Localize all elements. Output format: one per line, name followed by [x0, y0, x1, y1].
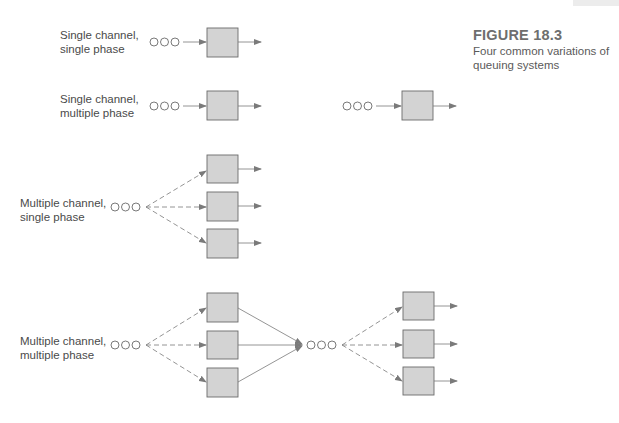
queue-customers-icon [307, 341, 336, 349]
dashed-arrow-icon [342, 307, 402, 345]
server-box-phase-1 [207, 368, 238, 397]
server-box-phase-1 [207, 293, 238, 322]
single-channel-single-phase-diagram [150, 28, 261, 57]
multiple-channel-single-phase-diagram [111, 155, 261, 258]
server-box-phase-1 [207, 331, 238, 359]
queue-customers-icon [150, 102, 179, 110]
server-box-phase-1 [207, 91, 238, 120]
server-box [207, 155, 238, 183]
server-box-phase-2 [403, 367, 434, 395]
dashed-arrow-icon [146, 171, 206, 207]
server-box [207, 28, 238, 57]
server-box-phase-2 [403, 330, 434, 358]
queue-customers-icon [111, 341, 140, 349]
server-box [207, 192, 238, 221]
queue-customers-icon [343, 102, 372, 110]
server-box [207, 229, 238, 258]
queue-customers-icon [150, 38, 179, 46]
queue-customers-icon [111, 203, 140, 211]
merge-arrow-icon [238, 308, 302, 344]
server-box-phase-2 [403, 292, 434, 320]
single-channel-multiple-phase-diagram [150, 91, 456, 120]
queuing-diagram [0, 0, 619, 423]
dashed-arrow-icon [146, 207, 206, 243]
server-box-phase-2 [402, 91, 433, 120]
dashed-arrow-icon [146, 308, 206, 345]
dashed-arrow-icon [146, 345, 206, 382]
multiple-channel-multiple-phase-diagram [111, 292, 457, 397]
dashed-arrow-icon [342, 345, 402, 381]
merge-arrow-icon [238, 346, 302, 382]
